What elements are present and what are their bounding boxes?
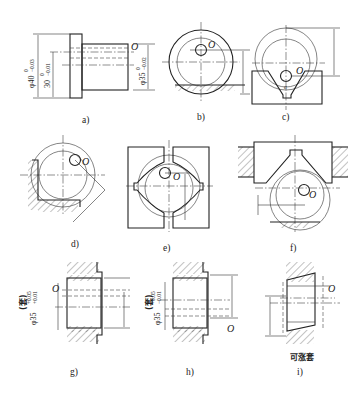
svg-text:O: O xyxy=(82,156,89,167)
svg-text:−0.02: −0.02 xyxy=(141,57,147,70)
dim-a3-main: φ35 xyxy=(138,72,147,85)
svg-text:O: O xyxy=(131,41,138,52)
svg-text:O: O xyxy=(328,283,335,294)
svg-text:O: O xyxy=(208,39,215,50)
svg-text:O: O xyxy=(227,323,234,334)
label-b: b) xyxy=(197,112,205,123)
panel-g: (套) φ35 +0.05 +0.01 O g) xyxy=(18,262,130,378)
panel-h: (套) φ35 +0.05 −0.01 O h) xyxy=(144,262,238,378)
dim-a2-main: 30 xyxy=(43,80,52,88)
panel-e: O e) xyxy=(126,140,213,254)
svg-text:φ35: φ35 xyxy=(153,312,162,325)
svg-text:O: O xyxy=(52,283,59,294)
svg-text:−0.01: −0.01 xyxy=(45,63,51,76)
label-c: c) xyxy=(282,112,289,123)
label-f: f) xyxy=(290,243,296,254)
svg-text:−0.01: −0.01 xyxy=(156,291,162,304)
label-d: d) xyxy=(71,239,79,250)
figure: φ40 0 −0.03 30 0 −0.01 O φ35 0 −0.02 a) … xyxy=(0,0,361,404)
svg-text:O: O xyxy=(309,189,316,200)
svg-text:O: O xyxy=(173,171,180,182)
svg-text:α: α xyxy=(284,84,287,90)
panel-d: O d) xyxy=(20,135,105,250)
caption-expanding-sleeve: 可涨套 xyxy=(290,352,315,362)
svg-text:+0.01: +0.01 xyxy=(32,291,38,304)
label-h: h) xyxy=(186,367,194,378)
label-a: a) xyxy=(82,115,89,126)
panel-f: O f) xyxy=(238,135,348,254)
label-g: g) xyxy=(70,367,78,378)
svg-text:−0.03: −0.03 xyxy=(29,59,35,72)
panel-c: O α c) xyxy=(252,25,340,123)
panel-b: O b) xyxy=(162,22,250,123)
svg-text:O: O xyxy=(296,65,303,76)
label-e: e) xyxy=(163,243,170,254)
label-i: i) xyxy=(297,367,303,378)
dim-a1-main: φ40 xyxy=(27,75,36,88)
technical-drawing: φ40 0 −0.03 30 0 −0.01 O φ35 0 −0.02 a) … xyxy=(0,0,361,404)
panel-i: O 可涨套 i) xyxy=(265,262,340,378)
svg-text:φ35: φ35 xyxy=(29,312,38,325)
panel-a: φ40 0 −0.03 30 0 −0.01 O φ35 0 −0.02 a) xyxy=(23,34,155,126)
